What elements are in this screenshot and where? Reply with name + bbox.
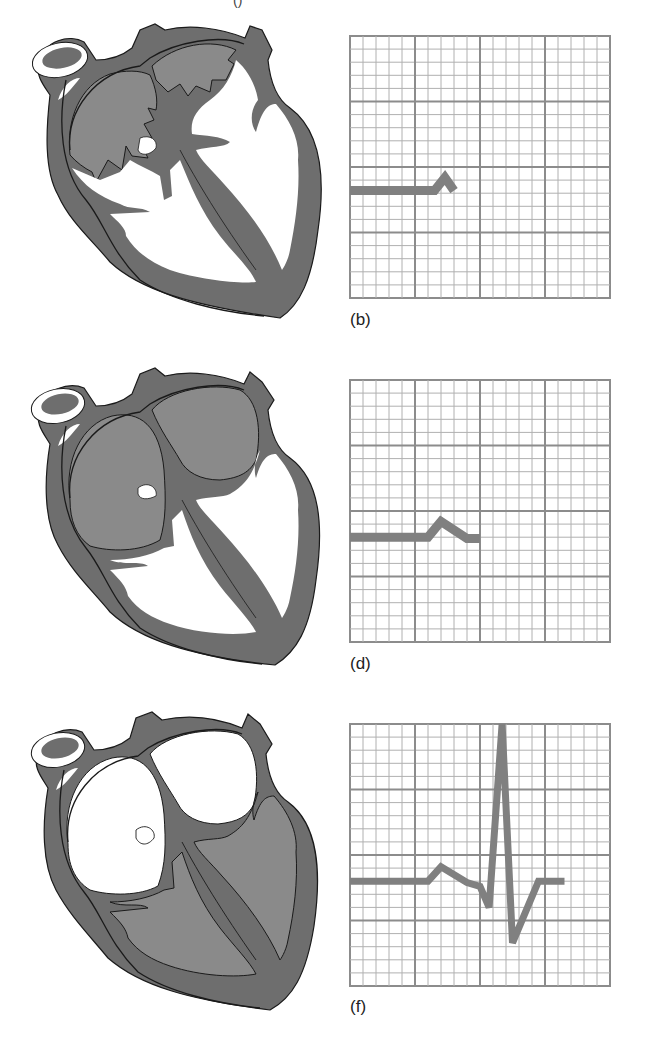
panel-f: (f) [0, 0, 653, 1051]
heart-diagram-ventricles-filled [0, 700, 340, 1030]
panel-label-f: (f) [350, 997, 366, 1017]
ecg-grid-f [349, 723, 611, 987]
